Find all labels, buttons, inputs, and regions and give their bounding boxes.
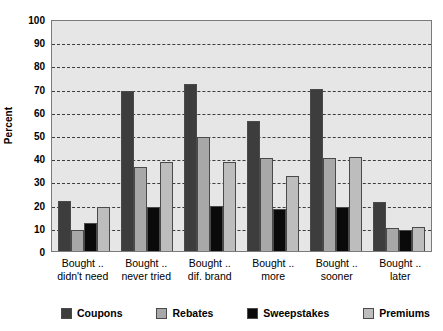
bar-group (305, 21, 368, 251)
x-axis-tick-line2: didn't need (51, 270, 115, 283)
bar[interactable] (121, 91, 134, 251)
bar-group (178, 21, 241, 251)
legend-item[interactable]: Sweepstakes (247, 307, 329, 319)
y-axis-tick: 100 (28, 15, 45, 26)
x-axis-tick: Bought ..never tried (115, 255, 179, 291)
y-axis-tick: 60 (34, 107, 45, 118)
y-axis-tick: 80 (34, 61, 45, 72)
y-axis-title-label: Percent (4, 106, 15, 143)
bar-group (242, 21, 305, 251)
bar[interactable] (373, 202, 386, 251)
y-axis-tick: 90 (34, 38, 45, 49)
legend-swatch (156, 308, 167, 319)
bar[interactable] (260, 158, 273, 251)
bar[interactable] (84, 223, 97, 251)
bar[interactable] (197, 137, 210, 251)
x-axis-tick: Bought ..didn't need (51, 255, 115, 291)
y-axis-title: Percent (0, 0, 18, 250)
x-axis-tick-line1: Bought .. (189, 257, 231, 269)
legend-item[interactable]: Coupons (61, 307, 123, 319)
chart-legend: CouponsRebatesSweepstakesPremiums (51, 303, 436, 323)
bar-chart: Percent 1009080706050403020100 Bought ..… (0, 0, 443, 331)
x-axis-tick: Bought ..sooner (305, 255, 369, 291)
bar[interactable] (210, 206, 223, 251)
bar[interactable] (247, 121, 260, 251)
legend-swatch (247, 308, 258, 319)
bars-layer (52, 21, 431, 251)
x-axis-tick: Bought ..later (369, 255, 433, 291)
y-axis-tick: 70 (34, 84, 45, 95)
bar[interactable] (97, 207, 110, 251)
bar[interactable] (412, 227, 425, 251)
bar[interactable] (399, 230, 412, 251)
legend-swatch (363, 308, 374, 319)
y-axis-tick: 10 (34, 223, 45, 234)
bar-group (52, 21, 115, 251)
bar[interactable] (349, 157, 362, 251)
x-axis-tick-line1: Bought .. (125, 257, 167, 269)
y-axis-tick: 40 (34, 154, 45, 165)
bar[interactable] (71, 230, 84, 251)
legend-label: Sweepstakes (263, 307, 329, 319)
bar[interactable] (323, 158, 336, 251)
bar[interactable] (223, 162, 236, 251)
x-axis-tick-line2: more (242, 270, 306, 283)
x-axis-tick-line1: Bought .. (62, 257, 104, 269)
y-axis-tick: 30 (34, 177, 45, 188)
bar[interactable] (134, 167, 147, 251)
legend-label: Premiums (379, 307, 430, 319)
x-axis-tick-line2: dif. brand (178, 270, 242, 283)
x-axis-tick: Bought ..dif. brand (178, 255, 242, 291)
x-axis-tick: Bought ..more (242, 255, 306, 291)
legend-label: Coupons (77, 307, 123, 319)
x-axis-tick-line2: sooner (305, 270, 369, 283)
bar[interactable] (58, 201, 71, 251)
x-axis-tick-line1: Bought .. (379, 257, 421, 269)
bar-group (115, 21, 178, 251)
legend-item[interactable]: Rebates (156, 307, 213, 319)
plot-area (51, 20, 432, 252)
legend-swatch (61, 308, 72, 319)
legend-item[interactable]: Premiums (363, 307, 430, 319)
x-axis-tick-line1: Bought .. (316, 257, 358, 269)
x-axis-tick-line2: later (369, 270, 433, 283)
bar[interactable] (273, 209, 286, 251)
x-axis-tick-labels: Bought ..didn't needBought ..never tried… (51, 255, 432, 291)
x-axis-tick-line1: Bought .. (252, 257, 294, 269)
y-axis-tick: 0 (39, 247, 45, 258)
bar[interactable] (147, 207, 160, 251)
y-axis-tick: 20 (34, 200, 45, 211)
y-axis-tick-labels: 1009080706050403020100 (18, 14, 48, 258)
bar[interactable] (310, 89, 323, 251)
bar[interactable] (286, 176, 299, 251)
bar[interactable] (336, 207, 349, 251)
bar-group (368, 21, 431, 251)
y-axis-tick: 50 (34, 131, 45, 142)
bar[interactable] (160, 162, 173, 251)
legend-label: Rebates (172, 307, 213, 319)
x-axis-tick-line2: never tried (115, 270, 179, 283)
bar[interactable] (386, 228, 399, 251)
bar[interactable] (184, 84, 197, 251)
